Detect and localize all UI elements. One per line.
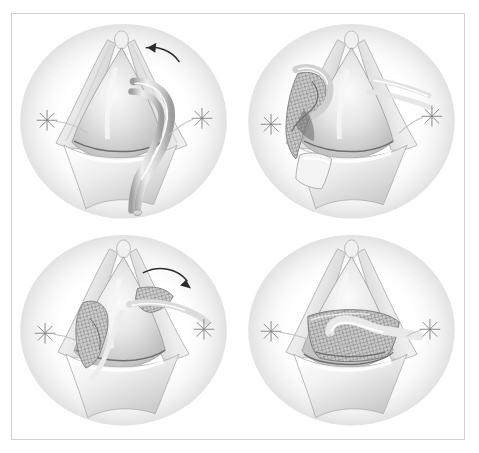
suture-star-right	[194, 319, 214, 339]
suture-star-right	[420, 319, 440, 339]
panel-grid	[12, 14, 464, 439]
panel-2-step-2	[238, 14, 464, 227]
illustration-frame	[11, 13, 465, 440]
apex-nodule	[345, 31, 359, 49]
stay-suture-right	[194, 319, 214, 339]
panel-2-artwork	[238, 14, 464, 227]
panel-3-artwork	[12, 227, 238, 440]
suture-star-right	[192, 108, 212, 128]
panel-3-step-3	[12, 227, 238, 440]
stay-suture-left	[261, 114, 281, 134]
apex-nodule	[117, 239, 131, 257]
figure-root	[0, 0, 479, 453]
panel-4-artwork	[238, 227, 464, 440]
suture-star-left	[37, 110, 57, 130]
suture-star-left	[261, 321, 281, 341]
panel-1-step-1	[12, 14, 238, 227]
passer-tip	[133, 210, 141, 215]
panel-1-artwork	[12, 14, 238, 227]
suture-star-left	[261, 114, 281, 134]
panel-4-step-4	[238, 227, 464, 440]
suture-star-right	[422, 106, 442, 126]
suture-star-left	[35, 323, 55, 343]
apex-nodule	[345, 239, 359, 257]
apex-nodule	[115, 31, 129, 49]
